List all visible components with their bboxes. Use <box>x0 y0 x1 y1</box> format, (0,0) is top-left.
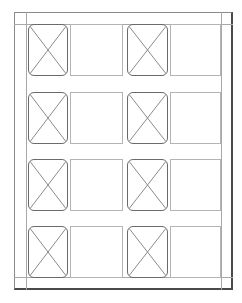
blank-box <box>70 226 123 278</box>
image-placeholder <box>28 92 68 144</box>
blank-box <box>70 24 123 76</box>
image-placeholder-icon <box>29 25 67 75</box>
image-placeholder-icon <box>128 160 167 210</box>
blank-box <box>70 159 123 211</box>
image-placeholder <box>127 24 168 76</box>
image-placeholder <box>28 159 68 211</box>
blank-box <box>170 159 221 211</box>
blank-box <box>170 92 221 144</box>
image-placeholder-icon <box>29 160 67 210</box>
image-placeholder <box>127 92 168 144</box>
image-placeholder <box>127 159 168 211</box>
guide-line-left <box>26 12 27 290</box>
image-placeholder-icon <box>128 227 167 277</box>
image-placeholder-icon <box>29 227 67 277</box>
image-placeholder <box>127 226 168 278</box>
image-placeholder-icon <box>29 93 67 143</box>
guide-line-right <box>221 12 222 290</box>
image-placeholder <box>28 24 68 76</box>
image-placeholder-icon <box>128 25 167 75</box>
image-placeholder-icon <box>128 93 167 143</box>
blank-box <box>170 24 221 76</box>
image-placeholder <box>28 226 68 278</box>
blank-box <box>170 226 221 278</box>
blank-box <box>70 92 123 144</box>
